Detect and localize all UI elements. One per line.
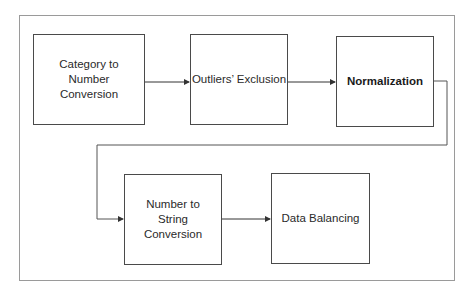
step-label: Category to Number Conversion: [34, 57, 144, 102]
step-label: Number to String Conversion: [125, 197, 221, 242]
step-label: Outliers’ Exclusion: [192, 72, 286, 87]
step-normalization: Normalization: [336, 36, 434, 127]
step-label: Normalization: [347, 74, 423, 89]
step-label: Data Balancing: [282, 211, 360, 226]
step-number-to-string: Number to String Conversion: [124, 174, 222, 265]
step-data-balancing: Data Balancing: [271, 173, 370, 264]
step-category-to-number: Category to Number Conversion: [33, 34, 145, 125]
step-outliers-exclusion: Outliers’ Exclusion: [190, 34, 288, 125]
